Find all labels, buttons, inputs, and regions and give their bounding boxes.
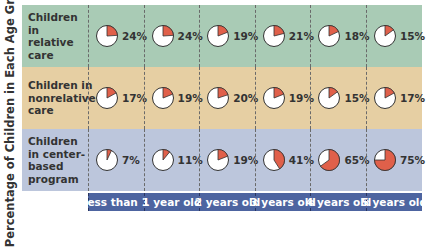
row-label: Children in nonrelative care — [22, 67, 88, 129]
pie-cell: 18% — [310, 5, 366, 67]
pie-cell: 11% — [144, 129, 200, 191]
pie-icon — [95, 24, 119, 48]
pie-icon — [262, 24, 286, 48]
percent-label: 15% — [400, 30, 425, 42]
pie-cell: 17% — [88, 67, 144, 129]
pie-cell: 19% — [199, 5, 255, 67]
pie-icon — [373, 24, 397, 48]
x-tick-label: 3 years old — [255, 193, 311, 211]
pie-cell: 15% — [310, 67, 366, 129]
x-tick-label: 4 years old — [310, 193, 366, 211]
pie-icon — [317, 24, 341, 48]
pie-cell: 7% — [88, 129, 144, 191]
pie-cell: 41% — [255, 129, 311, 191]
pie-cell: 21% — [255, 5, 311, 67]
pie-cell: 17% — [366, 67, 422, 129]
y-axis-label: Percentage of Children in Each Age Group… — [0, 0, 20, 216]
pie-cell: 19% — [144, 67, 200, 129]
row-label: Children in relative care — [22, 5, 88, 67]
pie-cell: 65% — [310, 129, 366, 191]
x-tick-label: less than 1 — [88, 193, 144, 211]
chart-row: Children in center-based program7%11%19%… — [22, 129, 422, 191]
pie-icon — [206, 148, 230, 172]
percent-label: 17% — [400, 92, 425, 104]
pie-icon — [373, 148, 397, 172]
pie-icon — [206, 24, 230, 48]
pie-cell: 24% — [144, 5, 200, 67]
pie-cell: 75% — [366, 129, 422, 191]
row-label: Children in center-based program — [22, 129, 88, 191]
x-tick-label: 5 years old — [366, 193, 422, 211]
percent-label: 7% — [122, 154, 140, 166]
percent-label: 75% — [400, 154, 425, 166]
y-axis-label-text: Percentage of Children in Each Age Group… — [3, 0, 17, 247]
pie-icon — [262, 148, 286, 172]
x-axis-band: less than 11 year old2 years old3 years … — [88, 193, 422, 211]
chart-row: Children in relative care24%24%19%21%18%… — [22, 5, 422, 67]
pie-icon — [373, 86, 397, 110]
pie-icon — [206, 86, 230, 110]
pie-icon — [262, 86, 286, 110]
pie-icon — [151, 148, 175, 172]
pie-cell: 20% — [199, 67, 255, 129]
pie-icon — [151, 24, 175, 48]
x-tick-label: 1 year old — [144, 193, 200, 211]
pie-cell: 19% — [199, 129, 255, 191]
chart-grid: Children in relative care24%24%19%21%18%… — [22, 5, 422, 191]
pie-icon — [95, 148, 119, 172]
x-tick-label: 2 years old — [199, 193, 255, 211]
pie-icon — [95, 86, 119, 110]
chart-row: Children in nonrelative care17%19%20%19%… — [22, 67, 422, 129]
pie-cell: 24% — [88, 5, 144, 67]
pie-cell: 15% — [366, 5, 422, 67]
pie-cell: 19% — [255, 67, 311, 129]
pie-icon — [317, 148, 341, 172]
pie-icon — [151, 86, 175, 110]
pie-icon — [317, 86, 341, 110]
